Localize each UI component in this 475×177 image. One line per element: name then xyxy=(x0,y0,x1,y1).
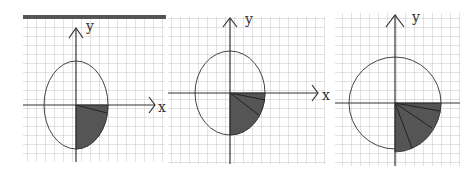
figure-canvas: x y x y y xyxy=(0,0,475,177)
y-axis-label: y xyxy=(411,9,420,25)
grid-background xyxy=(168,17,325,164)
y-axis-label: y xyxy=(244,11,253,27)
x-axis-label: x xyxy=(158,99,166,115)
panel-1: x y xyxy=(23,15,166,162)
panel-3: y xyxy=(335,9,460,166)
y-axis-label: y xyxy=(85,18,94,34)
panel-2: x y xyxy=(168,11,330,164)
x-axis-label: x xyxy=(322,87,330,103)
top-bar xyxy=(23,15,166,19)
